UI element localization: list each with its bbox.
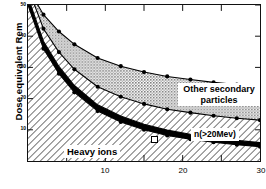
plot-area: Other secondary particles n(>20Mev) Heav… xyxy=(27,4,261,162)
data-point xyxy=(188,111,192,115)
x-tick-label: 30 xyxy=(249,166,266,176)
annotation-other-secondary: Other secondary particles xyxy=(178,83,260,106)
data-point xyxy=(41,13,45,17)
data-point xyxy=(142,102,146,106)
y-tick-label: 20 xyxy=(20,95,26,100)
data-point xyxy=(72,42,76,46)
data-point xyxy=(96,109,100,113)
data-point xyxy=(96,85,100,89)
data-point xyxy=(212,114,216,118)
data-point xyxy=(96,56,100,60)
data-point xyxy=(119,120,123,124)
data-point xyxy=(57,50,61,54)
y-tick-label: 40 xyxy=(20,33,26,38)
data-point xyxy=(72,90,76,94)
annotation-heavy-ions: Heavy ions xyxy=(64,145,120,158)
chart-figure: Dose equivalent Rem 50 40 30 20 10 10 20… xyxy=(0,0,266,189)
data-point xyxy=(41,47,45,51)
data-point xyxy=(188,77,192,81)
x-axis-tick-labels: 10 20 30 xyxy=(0,166,266,182)
data-point xyxy=(72,67,76,71)
data-point xyxy=(57,72,61,76)
data-point xyxy=(235,116,239,120)
data-point xyxy=(57,29,61,33)
y-axis-tick-labels: 50 40 30 20 10 xyxy=(12,0,26,165)
annotation-neutron: n(>20Mev) xyxy=(191,128,239,141)
data-point xyxy=(165,107,169,111)
data-point xyxy=(142,70,146,74)
data-point xyxy=(165,74,169,78)
data-point xyxy=(142,128,146,132)
x-tick-label: 10 xyxy=(93,166,117,176)
data-point xyxy=(119,64,123,68)
data-point xyxy=(235,143,239,147)
y-tick-label: 50 xyxy=(20,2,26,7)
data-point xyxy=(119,95,123,99)
data-point xyxy=(165,133,169,137)
x-tick-label: 20 xyxy=(171,166,195,176)
data-point xyxy=(41,27,45,31)
y-tick-label: 10 xyxy=(20,126,26,131)
y-tick-label: 30 xyxy=(20,64,26,69)
highlight-marker xyxy=(151,136,158,143)
